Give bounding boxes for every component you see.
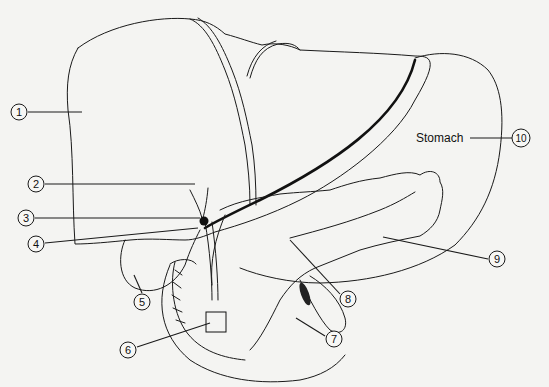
callout-10: 10 [512, 129, 530, 147]
anatomy-diagram: Stomach 1 2 3 4 5 6 7 8 9 10 [0, 0, 549, 387]
callout-4: 4 [28, 236, 44, 252]
callout-6: 6 [120, 342, 136, 358]
callout-9: 9 [489, 251, 505, 267]
callout-5: 5 [134, 294, 150, 310]
callout-3: 3 [18, 210, 34, 226]
svg-text:3: 3 [23, 212, 29, 224]
papilla-inset-box [206, 312, 226, 332]
svg-text:2: 2 [33, 178, 39, 190]
callout-2: 2 [28, 176, 44, 192]
svg-text:4: 4 [33, 238, 39, 250]
pancreas [212, 171, 443, 350]
stomach [240, 54, 502, 283]
svg-text:10: 10 [515, 133, 527, 144]
stomach-label: Stomach [416, 131, 463, 145]
leader-lines [28, 112, 512, 347]
duodenum [162, 260, 346, 382]
bile-ducts [190, 188, 218, 300]
svg-text:1: 1 [16, 106, 22, 118]
svg-text:9: 9 [494, 253, 500, 265]
svg-text:6: 6 [125, 344, 131, 356]
callout-8: 8 [340, 291, 356, 307]
liver [67, 18, 430, 244]
callout-7: 7 [326, 331, 342, 347]
callout-1: 1 [11, 104, 27, 120]
svg-text:7: 7 [331, 333, 337, 345]
svg-text:8: 8 [345, 293, 351, 305]
svg-text:5: 5 [139, 296, 145, 308]
